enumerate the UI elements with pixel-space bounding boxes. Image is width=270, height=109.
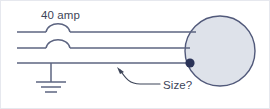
load-circle	[185, 16, 255, 86]
diagram-canvas: 40 amp Size?	[0, 0, 270, 109]
rating-label: 40 amp	[41, 9, 80, 21]
connection-dot	[185, 58, 194, 67]
electrical-diagram: 40 amp Size?	[0, 0, 270, 109]
callout-label: Size?	[163, 79, 192, 91]
